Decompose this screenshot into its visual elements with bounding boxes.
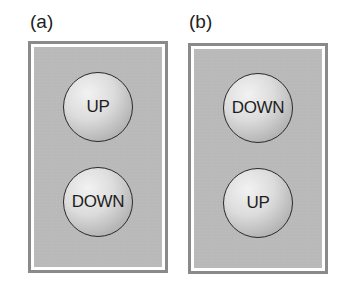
- panel-a-up-button[interactable]: UP: [63, 72, 133, 142]
- panel-b-down-button[interactable]: DOWN: [223, 73, 293, 143]
- panel-b-up-button[interactable]: UP: [223, 168, 293, 238]
- button-label: UP: [86, 97, 109, 117]
- panel-b-label: (b): [189, 12, 212, 32]
- button-label: UP: [246, 193, 269, 213]
- panel-a-label: (a): [30, 12, 53, 32]
- button-label: DOWN: [232, 98, 285, 118]
- panel-a-down-button[interactable]: DOWN: [63, 167, 133, 237]
- button-label: DOWN: [72, 192, 125, 212]
